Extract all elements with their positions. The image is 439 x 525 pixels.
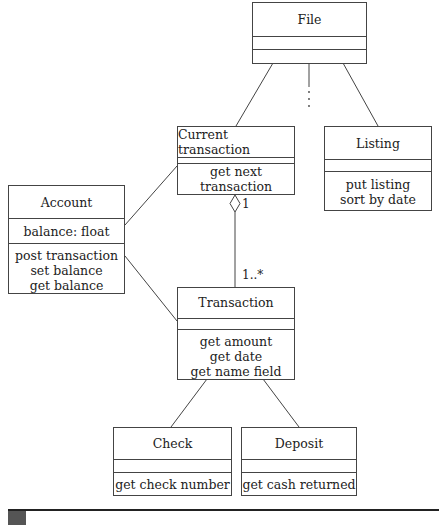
operation: get date [178, 349, 294, 364]
transaction-check-link [171, 379, 207, 427]
bottom-rule [8, 509, 439, 511]
class-deposit: Deposit get cash returned [241, 427, 357, 496]
class-account: Account balance: float post transaction … [8, 185, 125, 294]
file-listing-link [343, 63, 378, 126]
multiplicity-one: 1 [242, 197, 250, 211]
attribute: balance: float [24, 224, 110, 239]
class-check: Check get check number [113, 427, 232, 496]
operation: get amount [178, 334, 294, 349]
class-name: Current transaction [178, 127, 294, 157]
operations-section: get next transaction [178, 163, 294, 194]
operations-section: put listing sort by date [325, 171, 431, 210]
class-transaction: Transaction get amount get date get name… [177, 287, 295, 380]
attributes-section [325, 159, 431, 171]
account-transaction-link [125, 256, 177, 321]
class-listing: Listing put listing sort by date [324, 126, 432, 211]
aggregation-diamond-icon [230, 195, 240, 212]
attributes-section [114, 459, 231, 472]
class-name: Deposit [242, 428, 356, 459]
class-name: Check [114, 428, 231, 459]
attributes-section [242, 459, 356, 472]
operations-section [253, 49, 366, 63]
operation: post transaction [9, 248, 124, 263]
operation: get balance [9, 278, 124, 293]
account-current-link [125, 166, 177, 225]
attributes-section [178, 318, 294, 329]
operation: get next transaction [178, 164, 294, 194]
attributes-section: balance: float [9, 218, 124, 243]
class-file: File [252, 2, 367, 64]
class-name: Listing [325, 127, 431, 159]
class-current-transaction: Current transaction get next transaction [177, 126, 295, 195]
operations-section: get amount get date get name field [178, 329, 294, 379]
operation: set balance [9, 263, 124, 278]
class-name: File [253, 3, 366, 36]
operation: get cash returned [242, 477, 355, 492]
class-name: Transaction [178, 288, 294, 318]
operation: get check number [115, 477, 230, 492]
operation: sort by date [325, 192, 431, 207]
page-marker [8, 511, 26, 525]
class-name: Account [9, 186, 124, 218]
attributes-section [253, 36, 366, 49]
operations-section: post transaction set balance get balance [9, 243, 124, 293]
file-current-link [236, 63, 273, 126]
transaction-deposit-link [263, 379, 299, 427]
operation: get name field [178, 364, 294, 379]
operations-section: get check number [114, 472, 231, 495]
operation: put listing [325, 177, 431, 192]
operations-section: get cash returned [242, 472, 356, 495]
multiplicity-many: 1..* [242, 268, 263, 282]
